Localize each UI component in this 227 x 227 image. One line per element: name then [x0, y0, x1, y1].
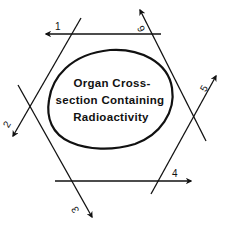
projection-1-label: 1 [55, 21, 61, 32]
projection-4-label: 4 [172, 168, 178, 179]
projection-6-arrow [140, 10, 206, 141]
organ-label-line-1: Organ Cross- [73, 77, 150, 89]
projection-3-label: 3 [69, 204, 82, 215]
projection-diagram: Organ Cross- section Containing Radioact… [0, 0, 227, 227]
projection-4: 4 [55, 168, 191, 181]
organ-label-line-3: Radioactivity [73, 111, 149, 123]
projection-6-label: 6 [135, 23, 148, 34]
projection-2-label: 2 [1, 119, 14, 130]
projection-2: 2 [1, 18, 81, 136]
organ-label-line-2: section Containing [56, 94, 165, 106]
projection-5-label: 5 [198, 83, 211, 94]
projection-2-arrow [13, 18, 81, 136]
